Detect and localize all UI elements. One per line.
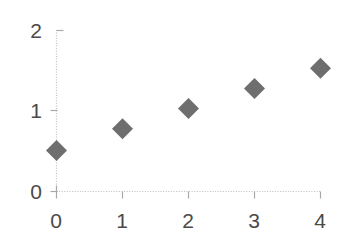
x-tick-label-2: 2 — [182, 210, 194, 231]
scatter-chart: 2 1 0 0 1 2 3 4 — [0, 0, 344, 246]
x-tick-label-1: 1 — [116, 210, 128, 231]
x-tick-label-0: 0 — [50, 210, 62, 231]
y-tick-label-0: 0 — [16, 181, 42, 202]
y-tick-label-1: 1 — [16, 100, 42, 121]
x-tick-label-3: 3 — [248, 210, 260, 231]
x-tick-label-4: 4 — [314, 210, 326, 231]
y-tick-label-2: 2 — [16, 20, 42, 41]
